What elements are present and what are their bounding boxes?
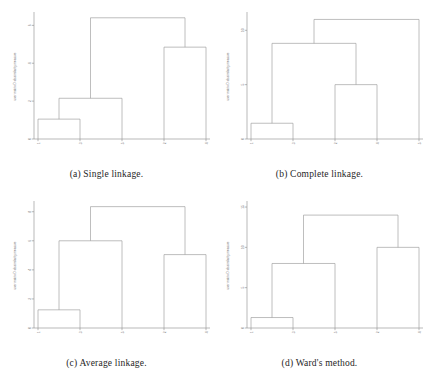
svg-text:5: 5: [121, 142, 125, 144]
svg-text:3: 3: [292, 142, 296, 144]
svg-text:10: 10: [241, 245, 245, 249]
svg-text:4: 4: [205, 331, 209, 333]
svg-text:0: 0: [241, 327, 245, 329]
svg-text:1: 1: [250, 331, 254, 333]
svg-text:user matrix D dissimilarity me: user matrix D dissimilarity measure: [226, 52, 230, 100]
dendrogram-figure: 024613524user matrix D dissimilarity mea…: [0, 0, 426, 378]
panel-caption-d: (d) Ward's method.: [213, 358, 426, 368]
plot-area-b: 051013245user matrix D dissimilarity mea…: [213, 0, 426, 160]
svg-text:1: 1: [250, 142, 254, 144]
dendrogram-svg-b: 051013245user matrix D dissimilarity mea…: [213, 0, 426, 160]
svg-text:2: 2: [376, 331, 380, 333]
panel-c: 0246813524user matrix D dissimilarity me…: [0, 189, 213, 378]
dendrogram-svg-a: 024613524user matrix D dissimilarity mea…: [0, 0, 213, 160]
svg-text:2: 2: [28, 298, 32, 300]
svg-text:3: 3: [79, 142, 83, 144]
svg-text:4: 4: [418, 331, 422, 333]
svg-text:15: 15: [241, 205, 245, 209]
svg-text:6: 6: [28, 240, 32, 242]
svg-text:5: 5: [241, 287, 245, 289]
svg-text:8: 8: [28, 211, 32, 213]
svg-text:user matrix D dissimilarity me: user matrix D dissimilarity measure: [226, 241, 230, 289]
svg-text:10: 10: [241, 28, 245, 32]
plot-area-a: 024613524user matrix D dissimilarity mea…: [0, 0, 213, 160]
svg-text:2: 2: [334, 142, 338, 144]
dendrogram-svg-d: 05101513524user matrix D dissimilarity m…: [213, 189, 426, 349]
panel-caption-b: (b) Complete linkage.: [213, 169, 426, 179]
panel-a: 024613524user matrix D dissimilarity mea…: [0, 0, 213, 189]
svg-text:user matrix D dissimilarity me: user matrix D dissimilarity measure: [13, 241, 17, 289]
svg-text:0: 0: [28, 138, 32, 140]
svg-text:1: 1: [37, 331, 41, 333]
svg-text:2: 2: [163, 142, 167, 144]
plot-area-d: 05101513524user matrix D dissimilarity m…: [213, 189, 426, 349]
svg-text:3: 3: [79, 331, 83, 333]
panel-caption-a: (a) Single linkage.: [0, 169, 213, 179]
panel-caption-c: (c) Average linkage.: [0, 358, 213, 368]
svg-text:4: 4: [205, 142, 209, 144]
svg-text:1: 1: [37, 142, 41, 144]
svg-text:0: 0: [241, 138, 245, 140]
svg-text:5: 5: [418, 142, 422, 144]
svg-text:0: 0: [28, 327, 32, 329]
svg-text:2: 2: [28, 100, 32, 102]
svg-text:4: 4: [376, 142, 380, 144]
svg-text:4: 4: [28, 62, 32, 64]
panel-b: 051013245user matrix D dissimilarity mea…: [213, 0, 426, 189]
plot-area-c: 0246813524user matrix D dissimilarity me…: [0, 189, 213, 349]
svg-text:2: 2: [163, 331, 167, 333]
svg-text:6: 6: [28, 24, 32, 26]
svg-text:user matrix D dissimilarity me: user matrix D dissimilarity measure: [13, 52, 17, 100]
svg-text:5: 5: [121, 331, 125, 333]
svg-text:4: 4: [28, 269, 32, 271]
svg-text:5: 5: [334, 331, 338, 333]
panel-d: 05101513524user matrix D dissimilarity m…: [213, 189, 426, 378]
dendrogram-svg-c: 0246813524user matrix D dissimilarity me…: [0, 189, 213, 349]
svg-text:3: 3: [292, 331, 296, 333]
svg-text:5: 5: [241, 84, 245, 86]
